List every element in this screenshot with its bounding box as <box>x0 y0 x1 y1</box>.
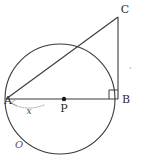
right-angle-marker-b <box>109 90 118 99</box>
geometry-figure: A B C P x O <box>0 0 141 161</box>
label-point-p: P <box>60 102 68 115</box>
label-angle-x: x <box>26 106 31 116</box>
label-vertex-a: A <box>3 94 13 107</box>
geometry-diagram-canvas: A B C P x O <box>0 0 141 161</box>
label-vertex-b: B <box>122 93 130 106</box>
point-p-dot <box>62 97 66 101</box>
label-vertex-c: C <box>121 3 129 16</box>
label-circle-center-o: O <box>15 139 23 150</box>
stray-artifact-dot <box>130 67 132 69</box>
